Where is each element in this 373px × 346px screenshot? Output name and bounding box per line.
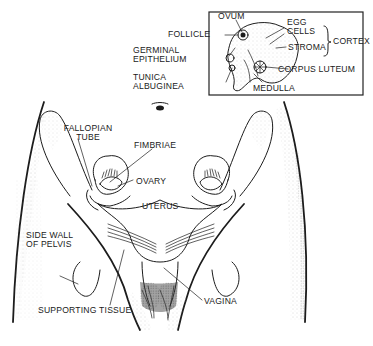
label-fallopian-tube-2: TUBE [62,133,114,143]
label-uterus: UTERUS [142,202,179,212]
label-egg-cells-2: CELLS [287,27,315,37]
label-ovary: OVARY [136,177,166,187]
pelvis-right [212,111,273,296]
label-stroma: STROMA [288,43,326,53]
label-follicle: FOLLICLE [168,30,210,40]
label-side-wall-2: OF PELVIS [26,240,72,250]
torso-outline-right [276,102,307,322]
label-fimbriae: FIMBRIAE [134,141,176,151]
side-wall-right [178,204,244,330]
label-medulla: MEDULLA [253,84,295,94]
navel-icon [152,103,168,111]
label-supporting-tissue: SUPPORTING TISSUE [38,306,131,316]
label-vagina: VAGINA [204,297,237,307]
label-tunica-albuginea-2: ALBUGINEA [133,82,184,92]
label-corpus-luteum: CORPUS LUTEUM [278,65,355,75]
label-cortex: CORTEX [333,37,370,47]
right-ovary-group [192,156,236,210]
torso-outline-left [13,102,46,322]
label-ovum: OVUM [218,12,245,22]
left-ovary-group [86,156,130,210]
supporting-tissue-fibers [108,224,214,253]
label-germinal-epithelium-2: EPITHELIUM [133,55,187,65]
